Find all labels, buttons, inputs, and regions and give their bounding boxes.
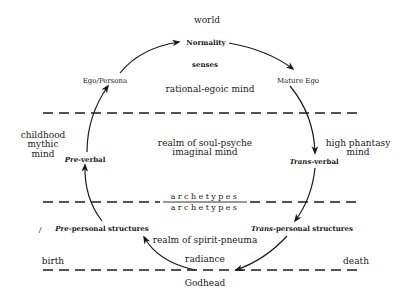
arrow-trans-verbal-to-trans-personal — [295, 168, 315, 221]
label-rational-egoic-mind: rational-egoic mind — [166, 84, 255, 94]
label-pre-personal-suffix: -personal structures — [69, 224, 149, 233]
label-birth: birth — [42, 256, 65, 266]
arrow-normality-to-mature-ego — [229, 43, 293, 69]
cycle-diagram: world Normality senses Ego/Persona Matur… — [0, 0, 406, 302]
label-normality: Normality — [186, 38, 226, 47]
label-trans-verbal-prefix: Trans — [289, 157, 311, 166]
label-ego-persona: Ego/Persona — [83, 77, 128, 85]
label-mythic: mythic — [28, 139, 59, 149]
label-pre-verbal: Pre-verbal — [64, 155, 106, 164]
label-death: death — [343, 256, 369, 266]
stray-mark: / — [39, 225, 42, 234]
label-trans-verbal: Trans-verbal — [289, 157, 339, 166]
label-pre-verbal-suffix: -verbal — [78, 155, 106, 164]
arrow-ego-to-normality — [120, 42, 179, 73]
label-trans-personal-prefix: Trans — [251, 224, 273, 233]
arrow-pre-personal-to-pre-verbal — [85, 165, 102, 221]
label-senses: senses — [192, 60, 218, 69]
label-pre-personal-structures: Pre-personal structures — [54, 224, 148, 233]
label-pre-personal-prefix: Pre — [54, 224, 69, 233]
label-mind-right: mind — [347, 147, 370, 157]
label-imaginal-mind: imaginal mind — [172, 147, 238, 157]
label-world: world — [194, 15, 220, 25]
label-godhead: Godhead — [185, 278, 226, 288]
label-radiance: radiance — [185, 254, 225, 264]
label-trans-verbal-suffix: -verbal — [311, 157, 339, 166]
label-archetypes-upper: archetypes — [171, 192, 240, 201]
label-mature-ego: Mature Ego — [277, 77, 319, 85]
arrow-mature-ego-to-trans-verbal — [290, 86, 315, 153]
label-archetypes-lower: archetypes — [171, 203, 240, 212]
arrow-pre-verbal-to-ego — [87, 86, 108, 152]
label-trans-personal-suffix: -personal structures — [273, 224, 353, 233]
label-pre-verbal-prefix: Pre — [64, 155, 79, 164]
label-realm-spirit-pneuma: realm of spirit-pneuma — [153, 235, 258, 245]
label-mind-left: mind — [32, 149, 55, 159]
label-trans-personal-structures: Trans-personal structures — [251, 224, 353, 233]
